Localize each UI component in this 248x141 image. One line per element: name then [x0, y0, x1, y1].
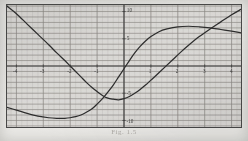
y-tick-label: -10 [127, 119, 134, 124]
y-tick-label: -5 [127, 91, 131, 96]
curve-curve-a [7, 6, 241, 100]
x-tick-label: 3 [203, 69, 206, 74]
y-tick-label: 5 [127, 36, 130, 41]
x-tick-label: -1 [94, 69, 98, 74]
x-tick-label: -3 [40, 69, 44, 74]
x-tick-label: -2 [67, 69, 71, 74]
curve-layer [7, 5, 241, 127]
x-tick-label: 4 [230, 69, 233, 74]
x-tick-label: 1 [149, 69, 152, 74]
figure-container: -4-3-2-11234105-5-10 Fig. 1.5 [0, 0, 248, 141]
y-tick-label: 10 [127, 8, 132, 13]
figure-caption: Fig. 1.5 [0, 128, 248, 136]
x-tick-label: -4 [13, 69, 17, 74]
x-tick-label: 2 [176, 69, 179, 74]
plot-frame: -4-3-2-11234105-5-10 [6, 4, 242, 128]
